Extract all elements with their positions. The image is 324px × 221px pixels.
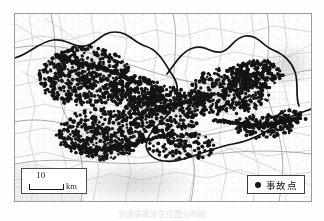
scale-bar: 10 km xyxy=(21,168,87,194)
accident-point-icon xyxy=(255,182,261,188)
scale-bar-unit: km xyxy=(66,181,77,191)
figure-container: 10 km 事故点 交通事故发生位置分布图 xyxy=(0,0,324,221)
legend-item-label: 事故点 xyxy=(266,178,298,192)
figure-caption: 交通事故发生位置分布图 xyxy=(0,208,324,219)
scale-bar-number: 10 xyxy=(36,170,46,180)
scale-bar-rule xyxy=(29,184,64,190)
legend: 事故点 xyxy=(247,175,306,194)
map-frame: 10 km 事故点 xyxy=(14,13,312,202)
